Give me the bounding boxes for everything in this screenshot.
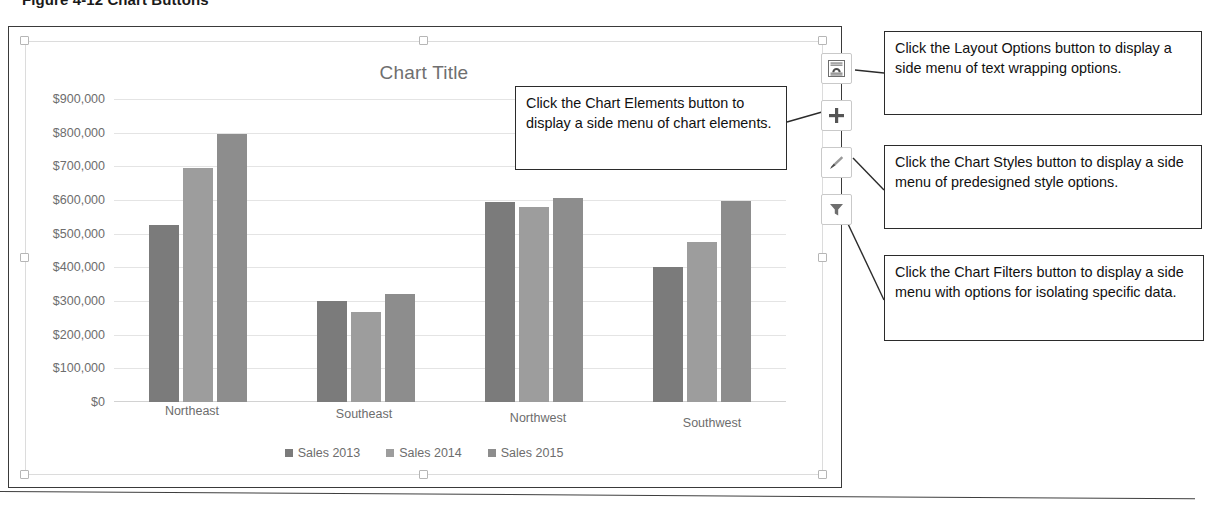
callout-layout-options: Click the Layout Options button to displ… xyxy=(884,31,1202,115)
chart-buttons-group xyxy=(821,53,855,241)
chart-styles-button[interactable] xyxy=(821,147,852,178)
callout-chart-elements: Click the Chart Elements button to displ… xyxy=(515,86,787,170)
leader-chart-styles xyxy=(853,158,884,190)
layout-options-button[interactable] xyxy=(821,53,852,84)
callout-chart-filters: Click the Chart Filters button to displa… xyxy=(884,255,1204,341)
selection-handle-bottom-right[interactable] xyxy=(818,470,827,479)
leader-chart-elements xyxy=(787,112,822,122)
paintbrush-icon xyxy=(827,153,846,172)
leader-layout-options xyxy=(855,70,884,73)
selection-handle-top-right[interactable] xyxy=(818,36,827,45)
selection-handle-top-center[interactable] xyxy=(419,36,428,45)
selection-handle-middle-right[interactable] xyxy=(818,253,827,262)
selection-handle-middle-left[interactable] xyxy=(20,253,29,262)
chart-filters-button[interactable] xyxy=(821,194,852,225)
callout-chart-styles: Click the Chart Styles button to display… xyxy=(884,145,1202,229)
selection-handle-bottom-left[interactable] xyxy=(20,470,29,479)
layout-options-icon xyxy=(827,59,846,78)
chart-elements-button[interactable] xyxy=(821,100,852,131)
plus-icon xyxy=(828,107,845,124)
funnel-icon xyxy=(828,201,845,218)
selection-handle-top-left[interactable] xyxy=(20,36,29,45)
selection-handle-bottom-center[interactable] xyxy=(419,470,428,479)
